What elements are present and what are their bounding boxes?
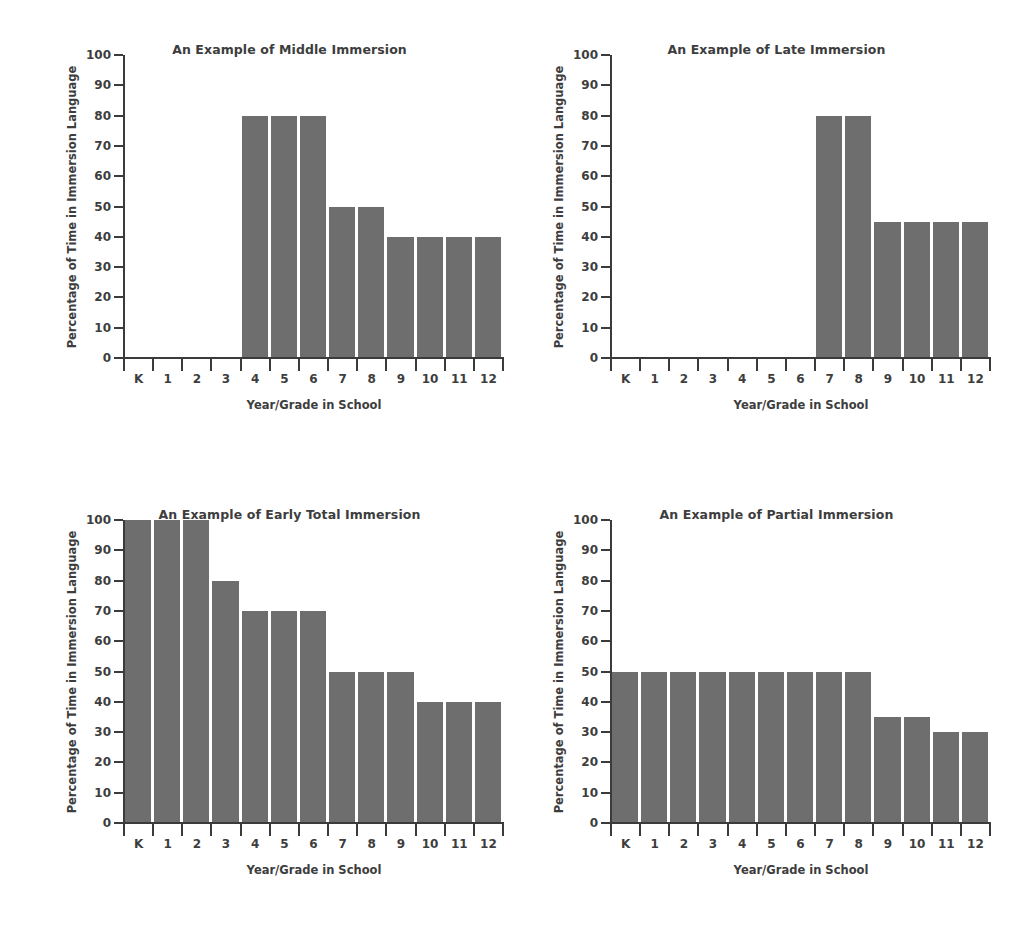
y-axis-tick: [601, 701, 610, 703]
bar: [271, 611, 297, 823]
bar: [962, 222, 988, 358]
x-axis-category-label: 4: [738, 372, 746, 386]
x-axis-tick: [931, 358, 933, 371]
y-axis-tick-label: 30: [94, 725, 111, 739]
plot-area: 0102030405060708090100K123456789101112: [124, 55, 503, 358]
bar: [300, 611, 326, 823]
x-axis-category-label: 9: [884, 837, 892, 851]
bar: [475, 237, 501, 358]
x-axis-tick: [872, 358, 874, 371]
y-axis-tick: [601, 357, 610, 359]
y-axis-tick: [601, 580, 610, 582]
bar: [125, 520, 151, 823]
x-axis-category-label: 9: [884, 372, 892, 386]
x-axis-tick: [152, 358, 154, 371]
x-axis-tick: [960, 358, 962, 371]
y-axis-tick: [114, 84, 123, 86]
x-axis-tick: [240, 358, 242, 371]
y-axis-tick: [114, 731, 123, 733]
y-axis-tick-label: 0: [590, 816, 598, 830]
y-axis-tick-label: 10: [581, 786, 598, 800]
x-axis-category-label: 4: [738, 837, 746, 851]
bar: [845, 672, 871, 824]
y-axis-tick: [601, 761, 610, 763]
x-axis-category-label: 3: [222, 837, 230, 851]
y-axis-tick-label: 20: [94, 755, 111, 769]
y-axis-tick: [601, 731, 610, 733]
bar: [816, 672, 842, 824]
x-axis-tick: [444, 823, 446, 836]
y-axis-tick-label: 10: [581, 321, 598, 335]
x-axis-category-label: 1: [651, 372, 659, 386]
y-axis-tick-label: 70: [581, 604, 598, 618]
x-axis-tick: [385, 358, 387, 371]
y-axis-tick: [114, 145, 123, 147]
y-axis-tick: [601, 822, 610, 824]
y-axis-tick-label: 30: [581, 725, 598, 739]
x-axis-category-label: 11: [451, 837, 468, 851]
bar: [417, 702, 443, 823]
x-axis-tick: [298, 823, 300, 836]
x-axis-category-label: 6: [796, 372, 804, 386]
y-axis-tick-label: 20: [581, 755, 598, 769]
x-axis-category-label: 2: [680, 372, 688, 386]
x-axis-tick: [727, 823, 729, 836]
x-axis-category-label: 2: [193, 372, 201, 386]
x-axis-tick: [415, 823, 417, 836]
figure-immersion-program-models: { "figure": { "background": "#ffffff", "…: [0, 0, 1035, 928]
x-axis-tick: [843, 358, 845, 371]
chart-bottom-right: An Example of Partial ImmersionPercentag…: [503, 485, 990, 925]
x-axis-category-label: 9: [397, 372, 405, 386]
x-axis-tick: [639, 358, 641, 371]
x-axis-tick: [814, 823, 816, 836]
y-axis-tick-label: 100: [573, 513, 598, 527]
y-axis-tick: [601, 236, 610, 238]
y-axis-tick: [114, 822, 123, 824]
y-axis-tick-label: 50: [94, 200, 111, 214]
y-axis-tick: [114, 701, 123, 703]
x-axis-category-label: K: [621, 837, 630, 851]
x-axis-tick: [356, 358, 358, 371]
bar: [787, 672, 813, 824]
y-axis-tick-label: 70: [94, 604, 111, 618]
x-axis-tick: [181, 358, 183, 371]
chart-bottom-left: An Example of Early Total ImmersionPerce…: [16, 485, 503, 925]
bar: [729, 672, 755, 824]
x-axis-category-label: 10: [909, 837, 926, 851]
y-axis-tick-label: 50: [581, 665, 598, 679]
bar: [758, 672, 784, 824]
x-axis-category-label: 7: [825, 837, 833, 851]
y-axis-tick: [114, 54, 123, 56]
x-axis-tick: [610, 358, 612, 371]
y-axis-tick: [601, 610, 610, 612]
x-axis-tick: [327, 358, 329, 371]
bar: [816, 116, 842, 358]
x-axis-category-label: 2: [680, 837, 688, 851]
x-axis-category-label: 7: [338, 837, 346, 851]
bar: [329, 207, 355, 359]
y-axis-tick-label: 100: [86, 513, 111, 527]
bar: [699, 672, 725, 824]
x-axis-label: Year/Grade in School: [124, 863, 504, 877]
y-axis-label: Percentage of Time in Immersion Language: [65, 522, 79, 822]
x-axis-category-label: 3: [709, 372, 717, 386]
y-axis-tick: [114, 671, 123, 673]
x-axis-label: Year/Grade in School: [124, 398, 504, 412]
x-axis-tick: [989, 358, 991, 371]
x-axis-category-label: K: [134, 837, 143, 851]
bar: [300, 116, 326, 358]
y-axis-label: Percentage of Time in Immersion Language: [552, 522, 566, 822]
chart-top-right: An Example of Late ImmersionPercentage o…: [503, 20, 990, 460]
y-axis-tick-label: 80: [94, 574, 111, 588]
x-axis-category-label: 10: [422, 372, 439, 386]
y-axis-tick-label: 60: [94, 169, 111, 183]
x-axis-tick: [756, 823, 758, 836]
bar: [446, 237, 472, 358]
x-axis-category-label: 6: [796, 837, 804, 851]
y-axis-tick: [601, 640, 610, 642]
y-axis-tick-label: 50: [94, 665, 111, 679]
y-axis-tick-label: 80: [581, 574, 598, 588]
x-axis-category-label: 1: [651, 837, 659, 851]
y-axis-tick: [114, 296, 123, 298]
x-axis-category-label: 7: [825, 372, 833, 386]
